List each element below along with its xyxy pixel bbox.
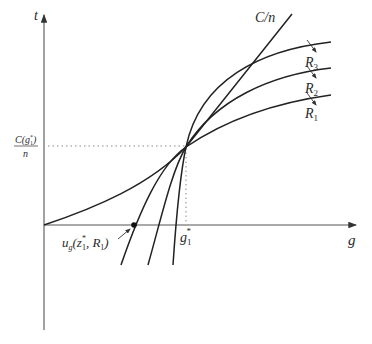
y-axis-label: t: [34, 8, 39, 23]
y-marker-fraction: C(g1*) n: [14, 134, 38, 159]
r3-curve: [173, 42, 331, 265]
ug-point: [131, 222, 137, 228]
r2-label: R2: [304, 81, 318, 98]
cost-line-label: C/n: [255, 10, 275, 25]
svg-text:n: n: [23, 148, 28, 159]
r1-label: R1: [304, 106, 318, 123]
x-marker-label: g1*: [180, 226, 192, 247]
diagram-canvas: t g C/n R3 R2 R1 C(g1*) n g1* ug(z1*, R1…: [0, 0, 372, 344]
r3-label: R3: [304, 55, 319, 72]
ug-annotation: ug(z1*, R1): [62, 234, 109, 252]
r1-curve: [121, 95, 331, 265]
svg-text:C(g1*): C(g1*): [15, 134, 37, 146]
x-axis-label: g: [348, 232, 356, 248]
ug-pointer-arrow: [118, 229, 130, 239]
